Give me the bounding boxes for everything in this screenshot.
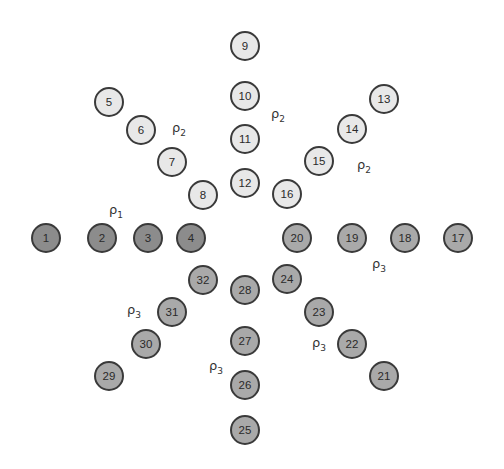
diagram-canvas: 1234567891011121314151617181920212223242… — [0, 0, 504, 469]
rho-label: ρ2 — [357, 157, 371, 175]
node-24: 24 — [272, 264, 302, 294]
rho-subscript: 3 — [217, 366, 223, 376]
node-2: 2 — [87, 223, 117, 253]
rho-subscript: 2 — [180, 128, 186, 138]
node-1: 1 — [31, 223, 61, 253]
node-5: 5 — [94, 87, 124, 117]
node-13: 13 — [369, 84, 399, 114]
node-8: 8 — [188, 180, 218, 210]
node-16: 16 — [272, 179, 302, 209]
node-17: 17 — [443, 223, 473, 253]
node-14: 14 — [337, 114, 367, 144]
node-11: 11 — [230, 124, 260, 154]
rho-label: ρ3 — [312, 335, 326, 353]
node-4: 4 — [176, 223, 206, 253]
rho-label: ρ2 — [172, 120, 186, 138]
rho-label: ρ2 — [271, 106, 285, 124]
node-31: 31 — [157, 297, 187, 327]
rho-label: ρ1 — [109, 202, 123, 220]
rho-subscript: 2 — [365, 165, 371, 175]
node-3: 3 — [133, 223, 163, 253]
node-15: 15 — [304, 146, 334, 176]
node-29: 29 — [94, 361, 124, 391]
rho-subscript: 1 — [117, 210, 123, 220]
node-9: 9 — [230, 31, 260, 61]
node-25: 25 — [230, 415, 260, 445]
node-20: 20 — [282, 223, 312, 253]
node-7: 7 — [157, 147, 187, 177]
node-32: 32 — [188, 265, 218, 295]
rho-label: ρ3 — [209, 358, 223, 376]
node-27: 27 — [230, 326, 260, 356]
rho-subscript: 3 — [380, 264, 386, 274]
node-18: 18 — [390, 223, 420, 253]
node-12: 12 — [230, 168, 260, 198]
node-10: 10 — [230, 81, 260, 111]
rho-label: ρ3 — [372, 256, 386, 274]
rho-subscript: 3 — [320, 343, 326, 353]
rho-label: ρ3 — [127, 302, 141, 320]
node-23: 23 — [304, 297, 334, 327]
node-28: 28 — [230, 275, 260, 305]
node-19: 19 — [337, 223, 367, 253]
node-30: 30 — [131, 329, 161, 359]
node-26: 26 — [230, 370, 260, 400]
node-6: 6 — [126, 115, 156, 145]
rho-subscript: 2 — [279, 114, 285, 124]
node-21: 21 — [369, 361, 399, 391]
node-22: 22 — [337, 329, 367, 359]
rho-subscript: 3 — [135, 310, 141, 320]
